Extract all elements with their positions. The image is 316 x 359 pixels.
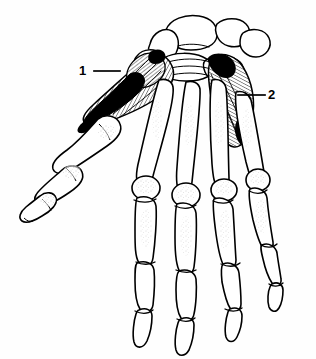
hand-skeleton-illustration [0, 0, 316, 359]
triquetrum-bone [240, 30, 270, 57]
anatomical-figure: 1 2 [0, 0, 316, 359]
label-2: 2 [268, 88, 275, 101]
middle-middle-phalanx [176, 270, 196, 321]
index-middle-phalanx [135, 262, 154, 312]
label-1: 1 [79, 64, 86, 77]
